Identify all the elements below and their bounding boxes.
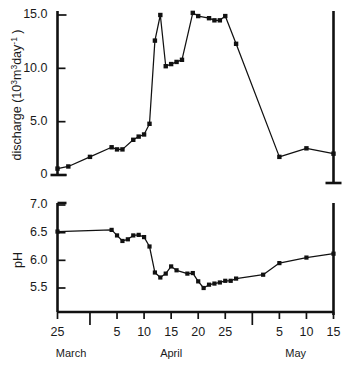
ph-data-point xyxy=(115,233,119,237)
ph-data-point xyxy=(207,283,211,287)
month-label: April xyxy=(160,347,182,359)
ph-data-point xyxy=(110,228,114,232)
xtick-label: 15 xyxy=(164,325,178,339)
discharge-data-point xyxy=(158,13,162,17)
ph-ytick-label: 5.5 xyxy=(30,280,47,294)
ph-series-line xyxy=(58,230,334,288)
discharge-data-point xyxy=(180,58,184,62)
ph-data-point xyxy=(164,272,168,276)
discharge-data-point xyxy=(169,62,173,66)
ph-data-point xyxy=(212,281,216,285)
ph-data-point xyxy=(126,237,130,241)
discharge-data-point xyxy=(120,147,124,151)
xtick-label: 10 xyxy=(299,325,313,339)
ph-data-point xyxy=(147,244,151,248)
ph-data-point xyxy=(304,255,308,259)
ph-data-point xyxy=(196,279,200,283)
ph-ytick-label: 6.0 xyxy=(30,253,47,267)
discharge-ytick-label: 15.0 xyxy=(23,7,47,21)
discharge-axis-title: discharge (103m3day-1 ) xyxy=(9,30,25,161)
discharge-data-point xyxy=(142,132,146,136)
discharge-data-point xyxy=(115,147,119,151)
discharge-data-point xyxy=(109,145,113,149)
ph-data-point xyxy=(191,271,195,275)
discharge-data-point xyxy=(164,64,168,68)
discharge-data-point xyxy=(153,38,157,42)
discharge-data-point xyxy=(147,122,151,126)
discharge-data-point xyxy=(174,60,178,64)
ph-data-point xyxy=(120,239,124,243)
discharge-data-point xyxy=(212,18,216,22)
discharge-data-point xyxy=(207,16,211,20)
ph-data-point xyxy=(174,268,178,272)
discharge-series-line xyxy=(58,13,334,169)
discharge-data-point xyxy=(218,18,222,22)
xtick-label: 5 xyxy=(276,325,283,339)
ph-data-point xyxy=(277,261,281,265)
discharge-data-point xyxy=(196,14,200,18)
discharge-ytick-label: 0 xyxy=(41,167,48,181)
ph-axis-title-text: pH xyxy=(11,252,25,268)
month-label: May xyxy=(285,347,306,359)
ph-data-point xyxy=(202,286,206,290)
ph-data-point xyxy=(229,279,233,283)
xtick-label: 15 xyxy=(327,325,341,339)
chart-canvas: 05.010.015.0discharge (103m3day-1 )5.56.… xyxy=(0,0,354,369)
discharge-axis-title-text: discharge (103m3day-1 ) xyxy=(9,30,25,161)
ph-data-point xyxy=(234,276,238,280)
discharge-data-point xyxy=(136,134,140,138)
ph-data-point xyxy=(331,252,335,256)
discharge-ytick-label: 10.0 xyxy=(23,61,47,75)
ph-data-point xyxy=(131,233,135,237)
discharge-data-point xyxy=(88,155,92,159)
discharge-data-point xyxy=(55,166,59,170)
ph-data-point xyxy=(55,229,59,233)
ph-data-point xyxy=(137,233,141,237)
ph-ytick-label: 6.5 xyxy=(30,225,47,239)
xtick-label: 5 xyxy=(114,325,121,339)
xtick-label: 25 xyxy=(218,325,232,339)
ph-data-point xyxy=(153,270,157,274)
month-label: March xyxy=(56,347,87,359)
ph-data-point xyxy=(142,235,146,239)
ph-data-point xyxy=(223,279,227,283)
figure-root: 05.010.015.0discharge (103m3day-1 )5.56.… xyxy=(0,0,354,369)
ph-data-point xyxy=(169,264,173,268)
discharge-ytick-label: 5.0 xyxy=(30,114,47,128)
discharge-data-point xyxy=(131,138,135,142)
discharge-data-point xyxy=(277,155,281,159)
xtick-label: 10 xyxy=(137,325,151,339)
ph-data-point xyxy=(185,272,189,276)
ph-data-point xyxy=(218,280,222,284)
xtick-label: 20 xyxy=(191,325,205,339)
discharge-data-point xyxy=(331,151,335,155)
xtick-label: 25 xyxy=(51,325,65,339)
ph-data-point xyxy=(261,273,265,277)
ph-data-point xyxy=(158,275,162,279)
discharge-data-point xyxy=(223,14,227,18)
discharge-data-point xyxy=(66,164,70,168)
ph-ytick-label: 7.0 xyxy=(30,197,47,211)
discharge-data-point xyxy=(191,11,195,15)
discharge-data-point xyxy=(304,146,308,150)
discharge-data-point xyxy=(234,42,238,46)
